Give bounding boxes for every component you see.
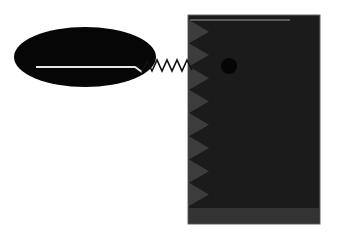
diagram-canvas [0, 0, 337, 238]
block [188, 15, 320, 224]
dot [221, 58, 237, 74]
ellipse [14, 27, 156, 87]
bottom-band [189, 208, 319, 223]
